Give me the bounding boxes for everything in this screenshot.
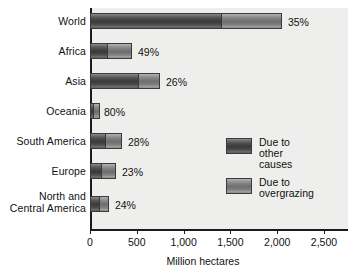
x-axis-tick: [230, 229, 231, 234]
bar-row: [90, 103, 100, 119]
x-axis-line: [90, 229, 348, 231]
legend-item-overgrazing: Due to overgrazing: [226, 178, 314, 199]
bar-segment-other-causes: [90, 43, 107, 59]
category-label-europe: Europe: [52, 166, 86, 178]
bar-value-label: 23%: [122, 166, 143, 178]
legend-swatch-other-causes: [226, 138, 252, 154]
x-axis-tick: [137, 229, 138, 234]
category-label-africa: Africa: [59, 46, 86, 58]
x-axis-tick-label: 2,500: [311, 236, 337, 248]
bar-segment-overgrazing: [138, 73, 160, 89]
x-axis-tick: [277, 229, 278, 234]
bar-segment-other-causes: [90, 73, 138, 89]
legend-swatch-overgrazing: [226, 178, 252, 194]
x-axis-title-text: Million hectares: [121, 255, 240, 267]
bar-row: [90, 13, 282, 29]
bar-row: [90, 163, 116, 179]
bar-segment-overgrazing: [221, 13, 282, 29]
legend-label-other-causes: Due to other causes: [259, 137, 292, 170]
bar-row: [90, 43, 132, 59]
bar-segment-overgrazing: [105, 133, 122, 149]
bar-segment-other-causes: [90, 163, 101, 179]
x-axis-title: Million hectares: [0, 255, 360, 267]
bar-segment-other-causes: [90, 133, 105, 149]
bar-value-label: 24%: [115, 199, 136, 211]
legend-label-overgrazing: Due to overgrazing: [259, 177, 314, 199]
x-axis-tick-label: 2,000: [264, 236, 290, 248]
x-axis-tick-label: 1,500: [217, 236, 243, 248]
bar-value-label: 35%: [288, 16, 309, 28]
category-label-south-america: South America: [16, 136, 86, 148]
x-axis-tick: [184, 229, 185, 234]
bar-segment-overgrazing: [101, 163, 116, 179]
bar-row: [90, 196, 109, 212]
bar-segment-other-causes: [90, 196, 99, 212]
x-axis-tick: [90, 229, 91, 234]
x-axis-tick-label: 1,000: [170, 236, 196, 248]
category-label-asia: Asia: [65, 76, 86, 88]
bar-chart: World Africa Asia Oceania South America …: [0, 0, 360, 275]
x-axis-tick-label: 500: [128, 236, 146, 248]
bar-segment-overgrazing: [99, 196, 109, 212]
bar-row: [90, 133, 122, 149]
legend-item-other-causes: Due to other causes: [226, 138, 292, 170]
x-axis-tick-label: 0: [87, 236, 93, 248]
bar-segment-overgrazing: [107, 43, 132, 59]
bar-value-label: 80%: [104, 106, 125, 118]
bar-row: [90, 73, 160, 89]
bar-value-label: 26%: [166, 76, 187, 88]
category-label-oceania: Oceania: [46, 106, 86, 118]
bar-value-label: 28%: [128, 136, 149, 148]
bar-segment-overgrazing: [93, 103, 100, 119]
category-label-north-and-central-america: North and Central America: [10, 191, 86, 214]
bar-segment-other-causes: [90, 13, 221, 29]
x-axis-tick: [324, 229, 325, 234]
bar-value-label: 49%: [138, 46, 159, 58]
category-label-world: World: [58, 16, 86, 28]
